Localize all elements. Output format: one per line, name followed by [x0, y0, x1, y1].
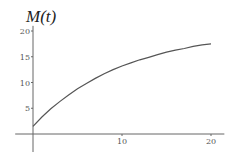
y-tick-label: 10 — [20, 79, 30, 88]
axes — [15, 26, 224, 152]
y-tick-label: 5 — [25, 104, 30, 113]
x-axis-ticks: 1020 — [117, 134, 216, 146]
y-axis-ticks: 5101520 — [20, 27, 33, 113]
y-tick-label: 20 — [20, 27, 30, 36]
data-curve — [33, 44, 211, 126]
x-tick-label: 20 — [206, 137, 216, 146]
y-tick-label: 15 — [20, 53, 30, 62]
chart-title: M(t) — [25, 7, 57, 26]
chart-area: M(t) 5101520 1020 — [0, 0, 242, 161]
x-tick-label: 10 — [117, 137, 127, 146]
